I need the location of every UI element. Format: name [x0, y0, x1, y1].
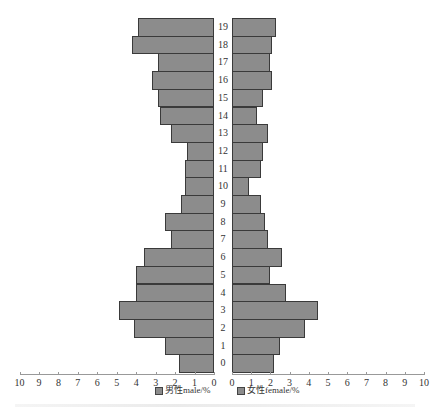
tick [328, 372, 329, 375]
age-label: 3 [214, 301, 232, 319]
age-label: 9 [214, 195, 232, 213]
age-label: 6 [214, 248, 232, 266]
x-tick-label: 10 [414, 377, 434, 388]
age-label: 18 [214, 36, 232, 54]
legend-male-label: 男性male/% [165, 385, 211, 395]
male-bar [132, 36, 214, 55]
male-bar [119, 301, 214, 320]
age-label: 10 [214, 177, 232, 195]
x-tick-label: 4 [299, 377, 319, 388]
age-label: 19 [214, 18, 232, 36]
female-bar [232, 71, 272, 90]
male-bar [158, 89, 214, 108]
female-bar [232, 53, 270, 72]
tick [347, 372, 348, 375]
male-swatch-icon [155, 387, 163, 395]
x-tick-label: 6 [337, 377, 357, 388]
legend-female-label: 女性female/% [247, 385, 299, 395]
tick [20, 372, 21, 375]
female-bar [232, 89, 263, 108]
male-bar [160, 107, 214, 126]
age-label: 7 [214, 230, 232, 248]
age-label: 2 [214, 319, 232, 337]
age-label: 14 [214, 107, 232, 125]
female-bar [232, 213, 265, 232]
age-label: 8 [214, 213, 232, 231]
tick [97, 372, 98, 375]
female-bar [232, 124, 268, 143]
male-bar [158, 53, 214, 72]
male-bar [138, 18, 214, 37]
female-bar [232, 160, 261, 179]
age-label: 1 [214, 337, 232, 355]
male-bar [144, 248, 214, 267]
male-bar [134, 319, 214, 338]
age-label: 13 [214, 124, 232, 142]
male-bar [181, 195, 214, 214]
tick [251, 372, 252, 375]
female-bar [232, 319, 305, 338]
male-bar [152, 71, 214, 90]
tick [58, 372, 59, 375]
female-bar [232, 177, 249, 196]
tick [214, 372, 215, 375]
male-bar [136, 284, 214, 303]
faded-caption [15, 404, 415, 407]
tick [270, 372, 271, 375]
female-swatch-icon [237, 387, 245, 395]
tick [405, 372, 406, 375]
female-bar [232, 266, 270, 285]
tick [39, 372, 40, 375]
x-tick-label: 7 [356, 377, 376, 388]
population-pyramid-chart: 012345678910111213141516171819 109876543… [0, 0, 444, 412]
tick [117, 372, 118, 375]
tick [136, 372, 137, 375]
male-bar [165, 337, 214, 356]
age-label: 15 [214, 89, 232, 107]
male-bar [185, 160, 214, 179]
legend-male: 男性male/% [155, 383, 211, 396]
age-label: 12 [214, 142, 232, 160]
male-bar [171, 230, 214, 249]
x-tick-label: 9 [29, 377, 49, 388]
age-label: 5 [214, 266, 232, 284]
tick [175, 372, 176, 375]
tick [156, 372, 157, 375]
x-tick-label: 7 [68, 377, 88, 388]
female-bar [232, 284, 286, 303]
age-label: 17 [214, 53, 232, 71]
female-bar [232, 337, 280, 356]
female-bar [232, 36, 272, 55]
tick [386, 372, 387, 375]
tick [290, 372, 291, 375]
x-tick-label: 9 [395, 377, 415, 388]
x-tick-label: 5 [107, 377, 127, 388]
x-tick-label: 8 [376, 377, 396, 388]
male-bar [171, 124, 214, 143]
tick [366, 372, 367, 375]
male-bar [165, 213, 214, 232]
age-label: 4 [214, 284, 232, 302]
x-tick-label: 8 [48, 377, 68, 388]
age-label: 16 [214, 71, 232, 89]
female-bar [232, 107, 257, 126]
female-bar [232, 354, 274, 373]
female-bar [232, 18, 276, 37]
female-bar [232, 248, 282, 267]
tick [309, 372, 310, 375]
male-bar [136, 266, 214, 285]
tick [232, 372, 233, 375]
x-tick-label: 5 [318, 377, 338, 388]
male-bar [187, 142, 214, 161]
female-bar [232, 195, 261, 214]
x-tick-label: 10 [10, 377, 30, 388]
female-bar [232, 142, 263, 161]
male-bar [185, 177, 214, 196]
tick [195, 372, 196, 375]
male-bar [179, 354, 214, 373]
tick [424, 372, 425, 375]
age-label: 0 [214, 354, 232, 372]
x-tick-label: 6 [87, 377, 107, 388]
x-tick-label: 4 [126, 377, 146, 388]
legend-female: 女性female/% [237, 383, 299, 396]
